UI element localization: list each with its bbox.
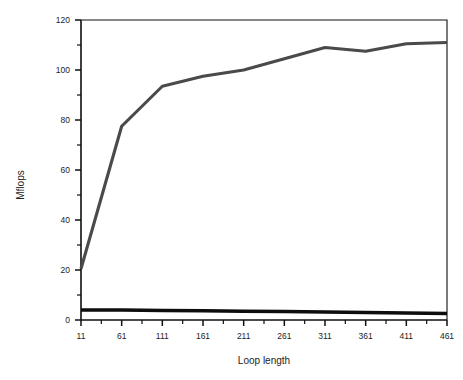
x-axis-tick-labels: 1161111161211261311361411461 [77, 331, 455, 341]
y-tick-label: 0 [65, 315, 70, 325]
y-tick-label: 80 [61, 115, 71, 125]
y-tick-label: 20 [61, 265, 71, 275]
x-tick-label: 111 [156, 331, 169, 341]
x-axis-title: Loop length [238, 355, 290, 366]
x-tick-label: 361 [359, 331, 373, 341]
x-axis-ticks [81, 320, 447, 326]
y-axis-ticks [75, 20, 81, 320]
y-axis-title: Mflops [15, 170, 26, 199]
x-tick-label: 161 [196, 331, 210, 341]
x-tick-label: 311 [318, 331, 332, 341]
x-tick-label: 461 [440, 331, 454, 341]
x-tick-label: 411 [400, 331, 414, 341]
y-tick-label: 100 [56, 65, 70, 75]
x-tick-label: 61 [117, 331, 127, 341]
x-tick-label: 211 [237, 331, 251, 341]
line-chart: 020406080100120 116111116121126131136141… [0, 0, 463, 380]
x-tick-label: 11 [77, 331, 86, 341]
data-series-group [81, 43, 447, 314]
y-axis-tick-labels: 020406080100120 [56, 15, 70, 325]
y-tick-label: 60 [61, 165, 71, 175]
series-upper-curve [81, 43, 447, 269]
y-tick-label: 40 [61, 215, 71, 225]
x-tick-label: 261 [277, 331, 291, 341]
chart-figure: 020406080100120 116111116121126131136141… [0, 0, 463, 380]
y-tick-label: 120 [56, 15, 70, 25]
series-lower-curve [81, 310, 447, 314]
